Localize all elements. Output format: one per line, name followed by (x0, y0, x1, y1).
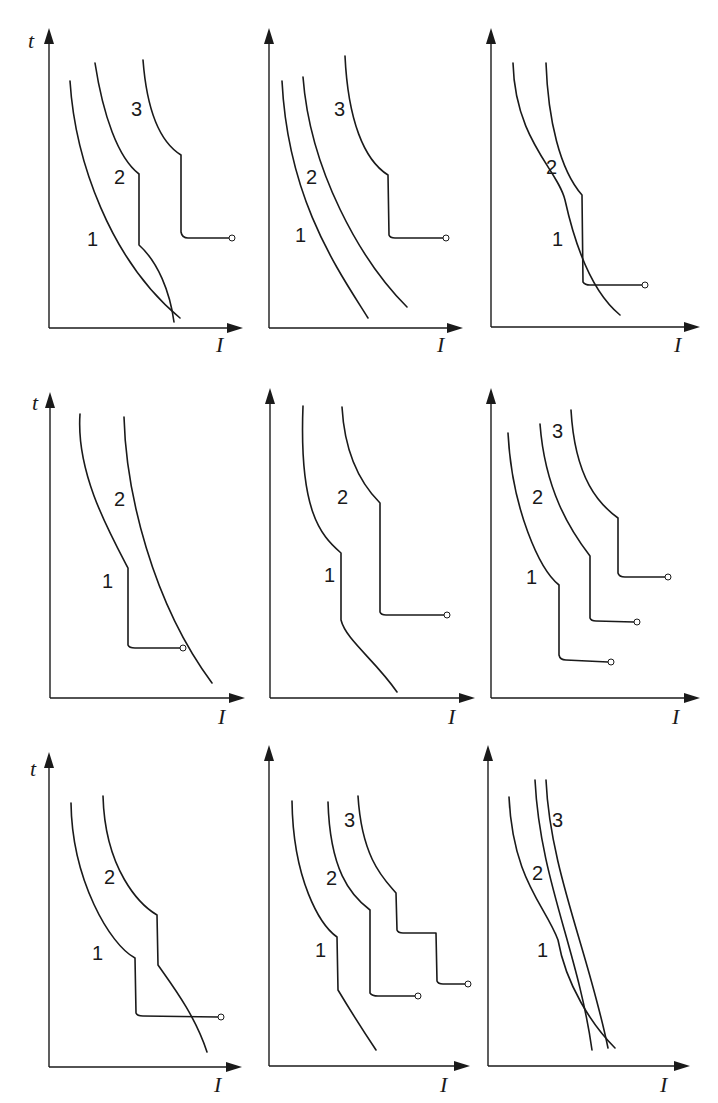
characteristic-curve-3 (571, 410, 665, 577)
diagram-panel-1: tI123 (28, 28, 243, 357)
characteristic-curve-2 (535, 780, 592, 1050)
x-axis-label: I (439, 1072, 449, 1097)
characteristic-curve-2 (328, 802, 415, 996)
open-circle-endpoint-icon (443, 235, 449, 241)
x-axis-arrow-icon (674, 1061, 690, 1071)
x-axis-arrow-icon (227, 323, 243, 333)
y-axis-arrow-icon (45, 392, 55, 408)
curve-label: 3 (344, 809, 355, 831)
curve-label: 1 (87, 228, 98, 250)
diagram-panel-5: I12 (265, 388, 475, 729)
characteristic-diagram-grid: tI123I123I12tI12I12I123tI12I123I123 (0, 0, 718, 1103)
curve-label: 3 (552, 420, 563, 442)
diagram-panel-7: tI12 (30, 752, 242, 1097)
curve-label: 2 (114, 488, 125, 510)
curve-label: 1 (526, 566, 537, 588)
x-axis-label: I (659, 1072, 669, 1097)
x-axis-arrow-icon (447, 323, 463, 333)
x-axis-arrow-icon (684, 322, 700, 332)
diagram-panel-9: I123 (483, 745, 690, 1097)
y-axis-arrow-icon (486, 28, 496, 44)
open-circle-endpoint-icon (642, 282, 648, 288)
y-axis-label: t (32, 390, 39, 415)
y-axis-arrow-icon (486, 388, 496, 404)
x-axis-label: I (447, 704, 457, 729)
curve-label: 2 (337, 486, 348, 508)
characteristic-curve-1 (513, 63, 620, 315)
curve-label: 2 (114, 166, 125, 188)
open-circle-endpoint-icon (608, 659, 614, 665)
y-axis-arrow-icon (44, 28, 54, 44)
curve-label: 3 (334, 98, 345, 120)
curve-label: 3 (131, 98, 142, 120)
curve-label: 3 (552, 809, 563, 831)
characteristic-curve-2 (540, 424, 634, 622)
open-circle-endpoint-icon (444, 612, 450, 618)
curve-label: 2 (546, 156, 557, 178)
x-axis-label: I (213, 1072, 223, 1097)
x-axis-arrow-icon (684, 693, 700, 703)
x-axis-arrow-icon (226, 1062, 242, 1072)
x-axis-label: I (436, 332, 446, 357)
characteristic-curve-3 (345, 56, 443, 238)
y-axis-arrow-icon (265, 388, 275, 404)
y-axis-arrow-icon (483, 745, 493, 761)
x-axis-label: I (671, 704, 681, 729)
open-circle-endpoint-icon (180, 645, 186, 651)
curve-label: 1 (92, 942, 103, 964)
y-axis-arrow-icon (44, 752, 54, 768)
open-circle-endpoint-icon (465, 981, 471, 987)
curve-label: 1 (295, 224, 306, 246)
curve-label: 1 (552, 228, 563, 250)
curve-label: 1 (537, 939, 548, 961)
characteristic-curve-2 (546, 63, 642, 285)
y-axis-label: t (28, 28, 35, 53)
curve-label: 2 (326, 867, 337, 889)
characteristic-curve-1 (80, 414, 181, 648)
characteristic-curve-1 (282, 81, 368, 318)
characteristic-curve-2 (342, 407, 444, 615)
characteristic-curve-1 (292, 801, 376, 1050)
curve-label: 2 (104, 866, 115, 888)
curve-label: 1 (315, 939, 326, 961)
x-axis-arrow-icon (229, 693, 245, 703)
x-axis-arrow-icon (454, 1061, 470, 1071)
x-axis-label: I (215, 332, 225, 357)
characteristic-curve-1 (508, 433, 608, 662)
x-axis-label: I (217, 704, 227, 729)
y-axis-label: t (30, 756, 37, 781)
curve-label: 2 (532, 486, 543, 508)
open-circle-endpoint-icon (665, 574, 671, 580)
open-circle-endpoint-icon (218, 1014, 224, 1020)
diagram-panel-3: I12 (486, 28, 700, 357)
curve-label: 1 (102, 570, 113, 592)
characteristic-curve-2 (303, 77, 407, 307)
y-axis-arrow-icon (264, 28, 274, 44)
diagram-panel-8: I123 (264, 745, 471, 1097)
x-axis-arrow-icon (459, 693, 475, 703)
open-circle-endpoint-icon (634, 619, 640, 625)
characteristic-curve-1 (303, 406, 397, 692)
curve-label: 2 (532, 862, 543, 884)
characteristic-curve-3 (143, 60, 229, 238)
characteristic-curve-2 (124, 417, 212, 683)
curve-label: 1 (324, 564, 335, 586)
characteristic-curve-3 (358, 796, 465, 984)
characteristic-curve-1 (71, 803, 218, 1017)
characteristic-curve-2 (103, 796, 207, 1052)
open-circle-endpoint-icon (229, 235, 235, 241)
y-axis-arrow-icon (264, 745, 274, 761)
diagram-panel-2: I123 (264, 28, 463, 357)
diagram-panel-6: I123 (486, 388, 700, 729)
open-circle-endpoint-icon (415, 993, 421, 999)
x-axis-label: I (673, 332, 683, 357)
curve-label: 2 (306, 166, 317, 188)
diagram-panel-4: tI12 (32, 390, 245, 729)
